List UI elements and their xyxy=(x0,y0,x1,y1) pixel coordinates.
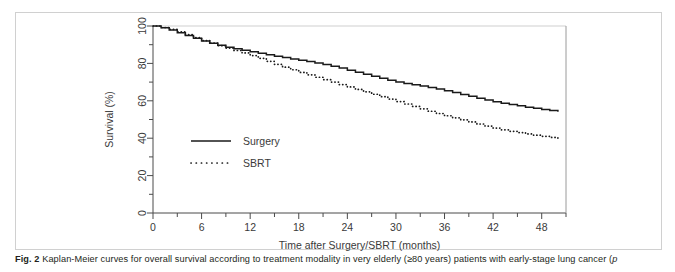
x-tick-label: 12 xyxy=(244,221,256,233)
y-tick-label: 20 xyxy=(136,170,148,182)
figure-caption-text: Kaplan-Meier curves for overall survival… xyxy=(42,254,612,264)
x-tick-label: 24 xyxy=(342,221,354,233)
x-tick-label: 36 xyxy=(439,221,451,233)
chart-canvas: 0204060801000612182430364248Time after S… xyxy=(16,13,663,251)
y-tick-label: 0 xyxy=(136,210,148,216)
figure-card: 0204060801000612182430364248Time after S… xyxy=(15,12,662,250)
figure-caption: Fig. 2 Kaplan-Meier curves for overall s… xyxy=(15,253,665,265)
legend-label-surgery: Surgery xyxy=(243,135,281,147)
figure-caption-label: Fig. 2 xyxy=(15,254,40,264)
data-series xyxy=(153,26,558,138)
x-tick-label: 42 xyxy=(487,221,499,233)
x-axis-ticks: 0612182430364248 xyxy=(150,213,566,233)
x-axis-title: Time after Surgery/SBRT (months) xyxy=(279,239,440,251)
y-tick-label: 80 xyxy=(136,57,148,69)
y-axis-ticks: 020406080100 xyxy=(136,17,153,216)
y-axis-title: Survival (%) xyxy=(103,91,115,148)
figure-page: 0204060801000612182430364248Time after S… xyxy=(0,0,675,272)
series-line-sbrt xyxy=(153,26,558,138)
x-tick-label: 48 xyxy=(536,221,548,233)
series-line-surgery xyxy=(153,26,558,112)
figure-caption-pvalue: p xyxy=(612,254,617,264)
y-tick-label: 40 xyxy=(136,132,148,144)
x-tick-label: 30 xyxy=(390,221,402,233)
x-tick-label: 18 xyxy=(293,221,305,233)
chart-legend: SurgerySBRT xyxy=(191,135,281,169)
x-tick-label: 6 xyxy=(199,221,205,233)
y-tick-label: 100 xyxy=(136,17,148,35)
axes xyxy=(153,26,566,213)
y-tick-label: 60 xyxy=(136,95,148,107)
legend-label-sbrt: SBRT xyxy=(243,157,271,169)
kaplan-meier-chart: 0204060801000612182430364248Time after S… xyxy=(16,13,663,251)
x-tick-label: 0 xyxy=(150,221,156,233)
